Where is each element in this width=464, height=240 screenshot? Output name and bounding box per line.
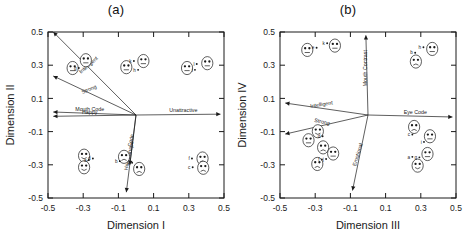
- panel-b: (b) -0.5-0.5-0.3-0.3-0.1-0.10.10.10.30.3…: [232, 0, 464, 240]
- data-point-label: e: [127, 161, 130, 166]
- data-point: d: [88, 156, 94, 161]
- vector-label: Emotional: [351, 142, 364, 166]
- face-icon: [424, 130, 435, 143]
- x-axis-title: Dimension I: [107, 219, 165, 231]
- x-tick-label: -0.1: [111, 203, 126, 213]
- x-axis-title: Dimension III: [336, 219, 400, 231]
- y-tick-label: 0.5: [31, 27, 43, 37]
- face-icon: [427, 42, 438, 55]
- data-point: k: [129, 59, 135, 64]
- y-tick-label: 0.3: [263, 60, 275, 70]
- data-point-label: e: [312, 45, 315, 50]
- data-point: h: [133, 68, 139, 73]
- data-point-label: a: [84, 158, 87, 163]
- data-point-label: c: [188, 165, 191, 170]
- y-tick-label: -0.5: [260, 193, 275, 203]
- data-point: k: [323, 41, 329, 46]
- data-point-label: g: [74, 66, 77, 71]
- vector-label: Happy: [82, 109, 98, 115]
- y-tick-label: -0.5: [28, 193, 43, 203]
- panel-a-plot: -0.5-0.5-0.3-0.3-0.1-0.10.10.10.30.30.50…: [0, 0, 232, 240]
- face-icon: [412, 159, 423, 172]
- y-tick-label: 0.1: [31, 94, 43, 104]
- data-point: i: [421, 140, 425, 145]
- face-icon: [138, 54, 149, 67]
- vector-label: Intelligent: [310, 99, 334, 109]
- x-tick-label: 0.3: [415, 203, 427, 213]
- data-point-label: d: [88, 156, 91, 161]
- panel-b-plot: -0.5-0.5-0.3-0.3-0.1-0.10.10.10.30.30.50…: [232, 0, 464, 240]
- data-point-label: f: [188, 156, 190, 161]
- vector-label: Unattractive: [169, 107, 197, 113]
- x-tick-label: -0.5: [273, 203, 288, 213]
- data-point-label: b: [115, 159, 118, 164]
- x-tick-label: -0.3: [308, 203, 323, 213]
- x-tick-label: -0.3: [76, 203, 91, 213]
- data-point-label: k: [323, 41, 326, 46]
- data-point-label: j: [322, 157, 324, 162]
- data-point: e: [312, 45, 318, 50]
- data-point-label: d: [318, 134, 321, 139]
- data-point: a: [407, 155, 413, 160]
- data-point: h: [419, 45, 425, 50]
- x-tick-label: 0.5: [218, 203, 230, 213]
- y-axis-title: Dimension IV: [236, 82, 248, 148]
- y-tick-label: 0.5: [263, 27, 275, 37]
- vector-arrow: [53, 32, 136, 115]
- x-tick-label: 0.1: [380, 203, 392, 213]
- face-icon: [328, 147, 339, 160]
- face-icon: [303, 134, 314, 147]
- data-point-label: a: [407, 155, 410, 160]
- y-tick-label: 0.3: [31, 60, 43, 70]
- x-tick-label: -0.1: [343, 203, 358, 213]
- y-tick-label: -0.3: [28, 160, 43, 170]
- figure-container: (a) -0.5-0.5-0.3-0.3-0.1-0.10.10.10.30.3…: [0, 0, 464, 240]
- face-icon: [318, 141, 329, 154]
- data-point-label: i: [421, 140, 422, 145]
- x-tick-label: -0.5: [41, 203, 56, 213]
- panel-a: (a) -0.5-0.5-0.3-0.3-0.1-0.10.10.10.30.3…: [0, 0, 232, 240]
- face-icon: [80, 54, 91, 67]
- face-icon: [410, 55, 421, 68]
- face-icon: [422, 147, 433, 160]
- face-icon: [134, 162, 145, 175]
- data-point: l: [193, 62, 197, 67]
- data-point-label: k: [129, 59, 132, 64]
- data-point: c: [188, 165, 194, 170]
- face-icon: [202, 57, 213, 70]
- face-icon: [67, 61, 78, 74]
- face-icon: [409, 120, 420, 133]
- y-tick-label: -0.1: [28, 127, 43, 137]
- face-icon: [198, 161, 209, 174]
- data-point-label: h: [133, 68, 136, 73]
- y-tick-label: 0.1: [263, 94, 275, 104]
- data-point-label: l: [193, 62, 194, 67]
- data-point-label: g: [415, 155, 418, 160]
- data-point-label: c: [408, 132, 411, 137]
- data-point: i: [192, 68, 196, 73]
- data-point: f: [188, 156, 193, 161]
- vector-arrow: [368, 115, 452, 119]
- x-tick-label: 0.3: [183, 203, 195, 213]
- data-point-label: i: [192, 68, 193, 73]
- vector-label: Eye Code: [404, 109, 427, 115]
- x-tick-label: 0.1: [148, 203, 160, 213]
- vector-label: Mouth Contrast: [362, 50, 368, 87]
- data-point-label: b: [410, 50, 413, 55]
- x-tick-label: 0.5: [450, 203, 462, 213]
- data-point-label: h: [419, 45, 422, 50]
- y-tick-label: -0.3: [260, 160, 275, 170]
- y-tick-label: -0.1: [260, 127, 275, 137]
- y-axis-title: Dimension II: [4, 84, 16, 145]
- face-icon: [329, 39, 340, 52]
- data-point: j: [322, 157, 327, 162]
